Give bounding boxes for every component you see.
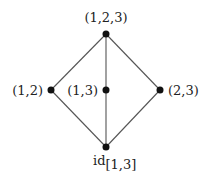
- node-top: [103, 31, 110, 38]
- label-left: (1,2): [12, 83, 43, 98]
- node-left: [48, 87, 55, 94]
- label-bottom: id[1,3]: [93, 153, 136, 172]
- node-right: [157, 87, 164, 94]
- node-middle: [103, 87, 110, 94]
- label-bottom-subscript: [1,3]: [105, 157, 136, 172]
- edge-left-bottom: [51, 90, 106, 147]
- hasse-diagram: (1,2,3) (1,2) (1,3) (2,3) id[1,3]: [0, 0, 210, 179]
- edge-top-right: [106, 34, 160, 90]
- label-right: (2,3): [168, 83, 199, 98]
- edge-top-left: [51, 34, 106, 90]
- label-top: (1,2,3): [84, 10, 127, 25]
- node-bottom: [103, 144, 110, 151]
- label-middle: (1,3): [67, 83, 98, 98]
- label-bottom-main: id: [93, 153, 105, 168]
- edge-right-bottom: [106, 90, 160, 147]
